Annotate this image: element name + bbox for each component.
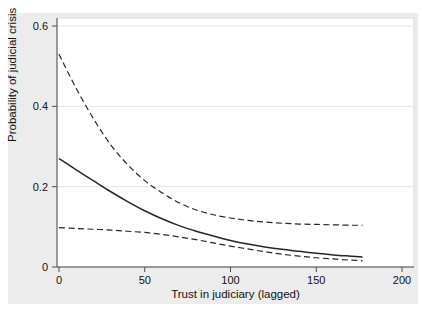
x-tick-label: 0 (56, 274, 62, 286)
y-tick-label: 0 (42, 261, 48, 273)
x-tick-label: 200 (393, 274, 411, 286)
x-tick-label: 100 (221, 274, 239, 286)
x-axis-title: Trust in judiciary (lagged) (57, 288, 414, 300)
y-tick-label: 0.6 (33, 20, 48, 32)
judicial-crisis-figure: 00.20.40.6050100150200 Probability of ju… (0, 0, 422, 319)
chart-canvas: 00.20.40.6050100150200 (0, 0, 422, 319)
y-tick-label: 0.4 (33, 100, 48, 112)
x-tick-label: 50 (139, 274, 151, 286)
y-tick-label: 0.2 (33, 181, 48, 193)
x-tick-label: 150 (307, 274, 325, 286)
